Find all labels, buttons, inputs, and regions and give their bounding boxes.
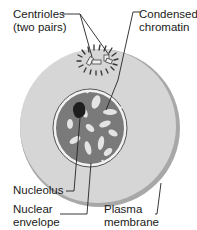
label-condensed-chromatin: Condensed chromatin xyxy=(139,8,197,34)
nucleus xyxy=(53,89,127,167)
nucleolus-shape xyxy=(73,102,86,118)
label-centrioles: Centrioles (two pairs) xyxy=(13,8,67,34)
label-nuclear-envelope: Nuclear envelope xyxy=(13,203,60,229)
label-plasma-membrane: Plasma membrane xyxy=(104,203,159,229)
label-nucleolus: Nucleolus xyxy=(13,184,64,197)
